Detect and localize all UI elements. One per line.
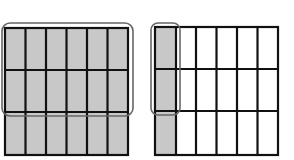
right-area-model bbox=[151, 23, 278, 155]
left-area-model bbox=[2, 23, 133, 155]
fraction-models bbox=[0, 0, 294, 160]
right-shaded-column bbox=[155, 27, 176, 155]
